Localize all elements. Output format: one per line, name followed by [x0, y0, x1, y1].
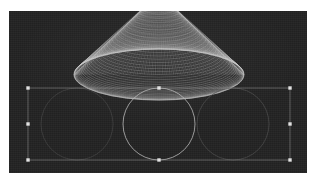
- handle-top-left[interactable]: [27, 87, 30, 90]
- handle-top-center[interactable]: [158, 87, 161, 90]
- handle-bottom-center[interactable]: [158, 159, 161, 162]
- selection-overlay[interactable]: [27, 87, 292, 162]
- left-circle[interactable]: [41, 88, 113, 160]
- handle-bottom-left[interactable]: [27, 159, 30, 162]
- handle-middle-left[interactable]: [27, 123, 30, 126]
- artwork-canvas[interactable]: [9, 11, 307, 173]
- screenshot-stage: [0, 0, 317, 182]
- handle-top-right[interactable]: [289, 87, 292, 90]
- handle-bottom-right[interactable]: [289, 159, 292, 162]
- right-circle[interactable]: [197, 88, 269, 160]
- artwork-svg: [9, 11, 307, 173]
- handle-middle-right[interactable]: [289, 123, 292, 126]
